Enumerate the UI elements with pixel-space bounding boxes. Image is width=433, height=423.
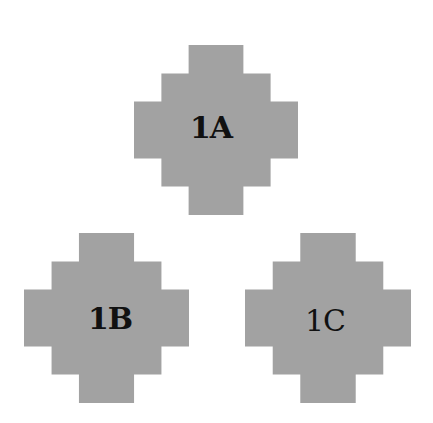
shape-label-1b: 1B: [88, 304, 132, 334]
shape-label-1a: 1A: [190, 113, 232, 143]
shape-label-1c: 1C: [305, 306, 345, 336]
